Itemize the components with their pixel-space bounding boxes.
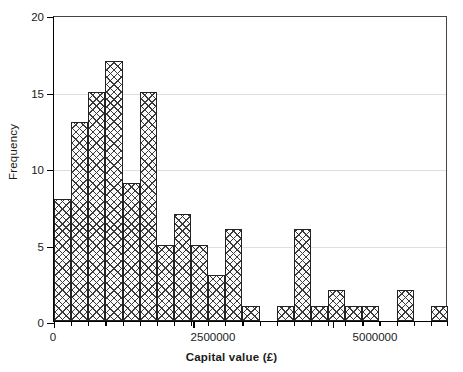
x-major-tick-0 xyxy=(54,321,55,328)
x-tick-16 xyxy=(328,321,329,326)
x-tick-10 xyxy=(225,321,226,326)
histogram-bar xyxy=(105,61,122,321)
y-tick-0 xyxy=(47,323,54,324)
x-tick-17 xyxy=(345,321,346,326)
x-tick-label-5000000: 5000000 xyxy=(353,331,398,343)
x-tick-5 xyxy=(140,321,141,326)
x-major-tick-1 xyxy=(193,321,194,328)
histogram-bar xyxy=(345,306,362,321)
x-tick-13 xyxy=(277,321,278,326)
histogram-bar xyxy=(242,306,259,321)
x-tick-12 xyxy=(260,321,261,326)
histogram-bar xyxy=(311,306,328,321)
x-tick-1 xyxy=(71,321,72,326)
histogram-bar xyxy=(88,92,105,322)
x-tick-6 xyxy=(157,321,158,326)
x-tick-9 xyxy=(208,321,209,326)
x-tick-21 xyxy=(414,321,415,326)
histogram-bar xyxy=(174,214,191,321)
histogram-bar xyxy=(397,290,414,321)
y-tick-label-15: 15 xyxy=(31,88,44,100)
histogram-bar xyxy=(294,229,311,321)
histogram-bar xyxy=(362,306,379,321)
x-tick-4 xyxy=(123,321,124,326)
histogram-bar xyxy=(123,183,140,321)
histogram-bar xyxy=(225,229,242,321)
histogram-bar xyxy=(71,122,88,321)
x-tick-2 xyxy=(88,321,89,326)
x-tick-7 xyxy=(174,321,175,326)
histogram-bar xyxy=(140,92,157,322)
x-tick-end xyxy=(447,321,448,326)
y-tick-label-5: 5 xyxy=(38,241,44,253)
x-tick-18 xyxy=(362,321,363,326)
x-tick-22 xyxy=(431,321,432,326)
x-tick-15 xyxy=(311,321,312,326)
x-axis-title: Capital value (£) xyxy=(0,351,463,363)
x-tick-8 xyxy=(191,321,192,326)
histogram-bar xyxy=(191,245,208,322)
y-tick-20 xyxy=(47,17,54,18)
histogram-bar xyxy=(54,199,71,321)
x-tick-14 xyxy=(294,321,295,326)
histogram-bar xyxy=(157,245,174,322)
histogram-bar xyxy=(431,306,448,321)
y-tick-label-20: 20 xyxy=(31,11,44,23)
x-tick-20 xyxy=(397,321,398,326)
x-tick-19 xyxy=(379,321,380,326)
y-axis-title: Frequency xyxy=(7,124,19,180)
y-tick-5 xyxy=(47,247,54,248)
plot-area: 20 15 10 5 0 xyxy=(53,16,447,322)
x-tick-label-0: 0 xyxy=(50,331,56,343)
y-tick-label-10: 10 xyxy=(31,164,44,176)
x-tick-label-2500000: 2500000 xyxy=(191,331,236,343)
histogram-bar xyxy=(208,275,225,321)
x-major-tick-2 xyxy=(333,321,334,328)
x-tick-11 xyxy=(242,321,243,326)
y-tick-15 xyxy=(47,94,54,95)
x-tick-3 xyxy=(105,321,106,326)
y-tick-10 xyxy=(47,170,54,171)
histogram-chart: Frequency 20 15 10 5 0 0 2500000 5000000… xyxy=(0,0,463,372)
histogram-bar xyxy=(328,290,345,321)
histogram-bar xyxy=(277,306,294,321)
y-tick-label-0: 0 xyxy=(38,317,44,329)
